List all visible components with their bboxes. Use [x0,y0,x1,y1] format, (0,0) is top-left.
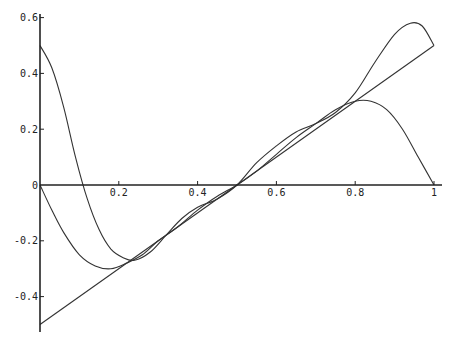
y-tick-label: -0.4 [14,291,38,302]
y-tick-label: 0 [32,180,38,191]
y-tick-label: -0.2 [14,235,38,246]
x-tick-label: 1 [431,187,437,198]
y-tick-label: 0.4 [20,68,38,79]
x-ticks: 0.20.40.60.81 [110,181,437,198]
x-tick-label: 0.8 [346,187,364,198]
plot-curves [40,22,434,324]
x-tick-label: 0.4 [189,187,207,198]
chart: 0.20.40.60.81 0.60.40.20-0.2-0.4 [0,0,456,342]
x-tick-label: 0.2 [110,187,128,198]
x-tick-label: 0.6 [267,187,285,198]
y-tick-label: 0.2 [20,124,38,135]
series-curve-b [40,22,434,260]
y-tick-label: 0.6 [20,12,38,23]
